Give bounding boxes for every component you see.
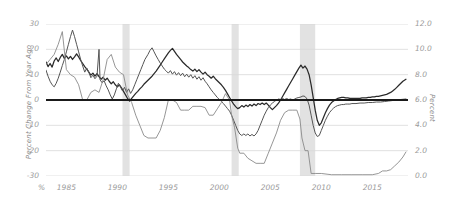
plot-svg (46, 24, 408, 176)
x-tick-label: 1985 (57, 183, 76, 192)
x-tick-label: 2010 (312, 183, 331, 192)
x-tick-label: 1995 (159, 183, 178, 192)
series-lines (46, 30, 406, 175)
x-tick-label: 2000 (210, 183, 229, 192)
plot-area (46, 24, 408, 176)
x-tick-label: 2015 (363, 183, 382, 192)
percent-unit-label: % (38, 183, 45, 192)
series-line-series-mid (46, 30, 406, 136)
chart-container: Percent Change From Year Ago Percent 302… (0, 0, 454, 208)
x-tick-label: 2005 (261, 183, 280, 192)
series-line-series-dark (46, 48, 406, 125)
x-tick-label: 1990 (108, 183, 127, 192)
